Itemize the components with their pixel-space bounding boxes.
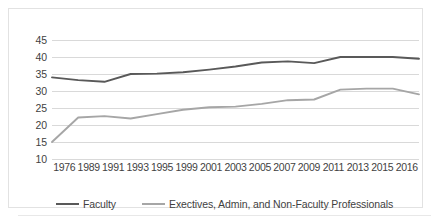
x-tick-label-1995: 1995	[150, 161, 174, 174]
plot-area	[52, 40, 419, 159]
x-tick-label-2007: 2007	[272, 161, 296, 174]
x-tick-label-1989: 1989	[76, 161, 100, 174]
x-axis: 1976198919911993199519992001200320052007…	[52, 161, 419, 177]
y-axis: 4540353025201510	[17, 40, 47, 159]
legend-line-swatch-icon	[142, 203, 165, 205]
x-tick-label-2005: 2005	[248, 161, 272, 174]
x-tick-label-2009: 2009	[297, 161, 321, 174]
x-tick-label-1976: 1976	[52, 161, 76, 174]
x-tick-label-1999: 1999	[174, 161, 198, 174]
y-tick-label-40: 40	[17, 52, 47, 62]
x-tick-label-2013: 2013	[346, 161, 370, 174]
legend-divider	[18, 215, 431, 216]
y-tick-label-15: 15	[17, 137, 47, 147]
series-lines	[52, 40, 419, 159]
legend-item-1[interactable]: Faculty	[56, 198, 116, 210]
x-tick-label-2003: 2003	[223, 161, 247, 174]
chart-legend: FacultyExectives, Admin, and Non-Faculty…	[18, 193, 431, 215]
x-tick-label-1993: 1993	[125, 161, 149, 174]
y-tick-label-20: 20	[17, 120, 47, 130]
x-tick-label-1991: 1991	[101, 161, 125, 174]
x-tick-label-2011: 2011	[321, 161, 345, 174]
legend-item-label: Faculty	[83, 198, 116, 210]
legend-item-2[interactable]: Exectives, Admin, and Non-Faculty Profes…	[142, 198, 393, 210]
gridline-10	[52, 159, 419, 160]
chart-frame: 4540353025201510 19761989199119931995199…	[8, 8, 423, 208]
chart-screenshot: 4540353025201510 19761989199119931995199…	[0, 0, 431, 224]
x-tick-label-2001: 2001	[199, 161, 223, 174]
y-tick-label-35: 35	[17, 69, 47, 79]
y-tick-label-10: 10	[17, 154, 47, 164]
x-tick-label-2015: 2015	[370, 161, 394, 174]
y-tick-label-45: 45	[17, 35, 47, 45]
legend-line-swatch-icon	[56, 203, 79, 205]
legend-item-label: Exectives, Admin, and Non-Faculty Profes…	[169, 198, 393, 210]
x-tick-label-2016: 2016	[395, 161, 419, 174]
y-tick-label-25: 25	[17, 103, 47, 113]
y-tick-label-30: 30	[17, 86, 47, 96]
series-line-exectives-admin-and-non-faculty-professionals	[52, 89, 419, 142]
series-line-faculty	[52, 57, 419, 82]
